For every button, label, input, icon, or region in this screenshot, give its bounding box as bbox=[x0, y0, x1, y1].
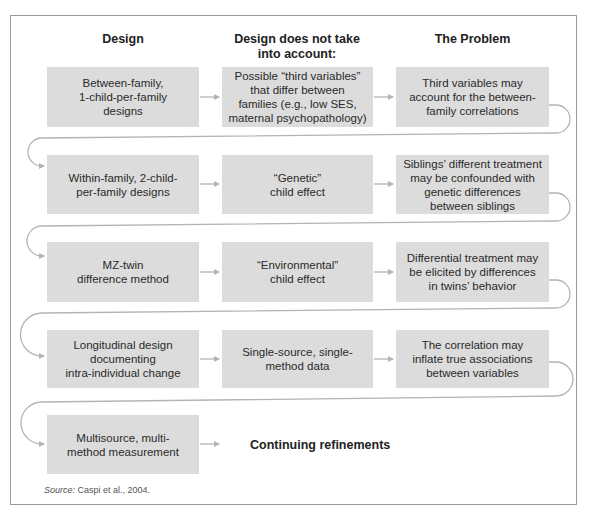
source-text: Caspi et al., 2004. bbox=[75, 485, 150, 495]
design-box-2: Within-family, 2-child- per-family desig… bbox=[47, 155, 199, 214]
design-box-1: Between-family, 1-child-per-family desig… bbox=[47, 67, 199, 127]
problem-box-3: Differential treatment may be elicited b… bbox=[396, 242, 549, 302]
not-account-box-3: “Environmental” child effect bbox=[222, 242, 373, 302]
problem-box-4: The correlation may inflate true associa… bbox=[396, 330, 549, 388]
source-label: Source: bbox=[44, 485, 75, 495]
header-not-account: Design does not take into account: bbox=[210, 32, 384, 62]
source-note: Source: Caspi et al., 2004. bbox=[44, 485, 150, 495]
problem-box-2: Siblings’ different treatment may be con… bbox=[396, 155, 549, 214]
design-box-4: Longitudinal design documenting intra-in… bbox=[47, 330, 199, 388]
not-account-box-4: Single-source, single- method data bbox=[222, 330, 373, 388]
not-account-box-1: Possible “third variables” that differ b… bbox=[222, 67, 373, 127]
header-problem: The Problem bbox=[396, 32, 549, 47]
design-box-3: MZ-twin difference method bbox=[47, 242, 199, 302]
continuing-refinements: Continuing refinements bbox=[250, 438, 390, 452]
header-design: Design bbox=[47, 32, 199, 47]
not-account-box-2: “Genetic” child effect bbox=[222, 155, 373, 214]
design-box-5: Multisource, multi- method measurement bbox=[47, 415, 199, 474]
problem-box-1: Third variables may account for the betw… bbox=[396, 67, 549, 127]
